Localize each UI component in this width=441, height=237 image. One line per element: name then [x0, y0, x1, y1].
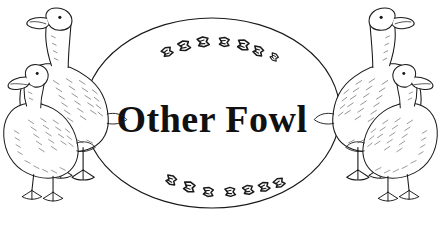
footprint-icon	[197, 36, 210, 48]
footprint-icon	[225, 187, 236, 197]
artwork-title: Other Fowl	[116, 98, 307, 140]
other-fowl-illustration: Other Fowl	[0, 0, 441, 237]
illustration-canvas: Other Fowl	[0, 0, 441, 237]
